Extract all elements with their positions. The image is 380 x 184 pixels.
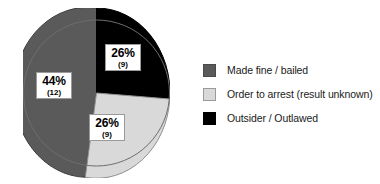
slice-label-percent: 44%	[37, 75, 71, 87]
legend-swatch-made-fine-bailed	[203, 64, 216, 77]
legend-item-order-to-arrest: Order to arrest (result unknown)	[203, 82, 378, 106]
slice-label-percent: 26%	[106, 47, 140, 59]
slice-label-count: (9)	[90, 131, 124, 139]
slice-label-order-to-arrest: 26% (9)	[89, 114, 125, 141]
legend-label-outsider-outlawed: Outsider / Outlawed	[227, 112, 318, 124]
legend-item-outsider-outlawed: Outsider / Outlawed	[203, 106, 378, 130]
legend-item-made-fine-bailed: Made fine / bailed	[203, 58, 378, 82]
slice-label-made-fine-bailed: 44% (12)	[36, 72, 72, 99]
slice-label-percent: 26%	[90, 117, 124, 129]
legend-label-made-fine-bailed: Made fine / bailed	[227, 64, 308, 76]
chart-legend: Made fine / bailed Order to arrest (resu…	[203, 58, 378, 130]
slice-label-count: (9)	[106, 61, 140, 69]
pie-chart-figure: 26% (9) 44% (12) 26% (9) Made fine / bai…	[0, 0, 380, 184]
legend-swatch-outsider-outlawed	[203, 112, 216, 125]
legend-swatch-order-to-arrest	[203, 88, 216, 101]
legend-label-order-to-arrest: Order to arrest (result unknown)	[227, 88, 373, 100]
slice-label-count: (12)	[37, 89, 71, 97]
slice-label-outsider-outlawed: 26% (9)	[105, 44, 141, 71]
